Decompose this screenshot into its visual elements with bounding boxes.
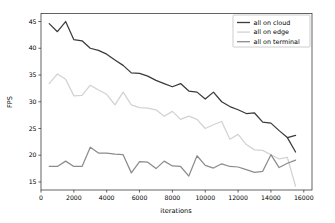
x-tick-label: 16000 bbox=[294, 194, 314, 201]
y-tick-label: 45 bbox=[29, 18, 37, 25]
legend-label-all-on-cloud: all on cloud bbox=[254, 19, 291, 27]
y-tick-label: 35 bbox=[29, 71, 37, 78]
chart-legend[interactable]: all on cloudall on edgeall on terminal bbox=[233, 15, 310, 47]
x-tick-label: 8000 bbox=[165, 194, 181, 201]
x-tick-label: 0 bbox=[39, 194, 43, 201]
x-tick-label: 12000 bbox=[228, 194, 248, 201]
y-tick-label: 20 bbox=[29, 151, 37, 158]
chart-figure: 15202530354045 0200040006000800010000120… bbox=[0, 0, 335, 223]
line-chart: 15202530354045 0200040006000800010000120… bbox=[0, 0, 335, 223]
x-tick-label: 14000 bbox=[261, 194, 281, 201]
legend-label-all-on-edge: all on edge bbox=[254, 28, 290, 36]
y-tick-label: 40 bbox=[29, 44, 37, 51]
x-tick-label: 4000 bbox=[99, 194, 115, 201]
legend-label-all-on-terminal: all on terminal bbox=[254, 38, 300, 46]
y-axis-title: FPS bbox=[6, 96, 14, 108]
x-tick-label: 2000 bbox=[66, 194, 82, 201]
y-tick-label: 15 bbox=[29, 178, 37, 185]
x-axis-title: iterations bbox=[160, 207, 192, 215]
x-tick-label: 6000 bbox=[132, 194, 148, 201]
y-tick-label: 25 bbox=[29, 125, 37, 132]
x-tick-label: 10000 bbox=[195, 194, 215, 201]
y-tick-label: 30 bbox=[29, 98, 37, 105]
